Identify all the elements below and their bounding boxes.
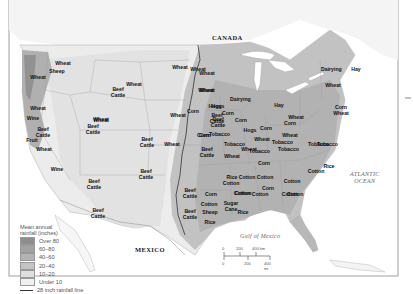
crop-label: Tobacco	[278, 147, 298, 153]
legend-label: 28 inch rainfall line	[37, 287, 83, 293]
crop-label: Wheat	[197, 71, 217, 77]
crop-label: Corn	[183, 109, 203, 115]
crop-label: Tobacco	[249, 149, 269, 155]
crop-label: Rice	[233, 210, 253, 216]
crop-label: Hay	[269, 103, 289, 109]
crop-label: Corn	[231, 118, 251, 124]
crop-label: Corn	[280, 121, 300, 127]
legend-label: 10–20	[39, 271, 55, 277]
crop-label: Sheep	[47, 69, 67, 75]
crop-label: Wheat	[196, 88, 216, 94]
crop-label: Wheat	[34, 147, 54, 153]
legend-item-over-80: Over 80	[20, 237, 110, 245]
crop-label: Dairying	[321, 67, 341, 73]
atlantic-line2: OCEAN	[350, 178, 380, 185]
crop-label: Wheat	[53, 61, 73, 67]
scale-mi-200: 200	[244, 261, 251, 266]
crop-label: Beef Cattle	[83, 124, 103, 135]
scale-mi-400: 400 mi	[264, 261, 274, 271]
swatch-10-20	[20, 270, 35, 278]
legend-item-10-20: 10–20	[20, 270, 110, 278]
crop-label: Sheep	[200, 210, 220, 216]
crop-label: Wheat	[222, 154, 242, 160]
crop-label: Corn	[256, 126, 276, 132]
crop-label: Wheat	[280, 133, 300, 139]
scale-km-200: 200	[236, 246, 243, 251]
crop-label: Wheat	[28, 75, 48, 81]
swatch-40-60	[20, 253, 35, 261]
scale-km-0: 0	[222, 246, 224, 251]
crop-label: Beef Cattle	[180, 209, 200, 220]
crop-label: Cotton	[221, 181, 241, 187]
legend-item-rainfall-line: 28 inch rainfall line	[20, 286, 110, 294]
scale-km-400: 400 km	[252, 246, 265, 251]
crop-label: Corn Wheat	[331, 105, 351, 116]
crop-label: Hogs	[208, 104, 228, 110]
crop-label: Cotton	[285, 192, 305, 198]
crop-label: Beef Cattle	[208, 117, 228, 128]
crop-label: Wheat	[162, 142, 182, 148]
swatch-under-10	[20, 278, 35, 286]
crop-label: Wheat	[28, 106, 48, 112]
country-label-mexico: MEXICO	[135, 246, 165, 253]
swatch-20-40	[20, 262, 35, 270]
crop-label: Beef Cattle	[84, 179, 104, 190]
legend-label: Over 80	[39, 238, 59, 244]
legend-item-40-60: 40–60	[20, 253, 110, 261]
legend-label: 40–60	[39, 254, 55, 260]
rainfall-line-sample	[20, 290, 33, 291]
legend-label: Under 10	[39, 279, 62, 285]
crop-label: Beef Cattle	[136, 169, 156, 180]
legend-title-line2: rainfall (inches)	[20, 230, 110, 236]
atlantic-ocean-label: ATLANTIC OCEAN	[350, 171, 380, 185]
scale-mi-0: 0	[222, 261, 224, 266]
crop-label: Wine	[23, 116, 43, 122]
crop-label: Cotton	[282, 179, 302, 185]
crop-label: Beef Cattle	[137, 137, 157, 148]
crop-label: Wheat	[323, 83, 343, 89]
legend-item-60-80: 60–80	[20, 245, 110, 253]
crop-label: Cotton	[199, 202, 219, 208]
crop-label: Dairying	[230, 97, 250, 103]
crop-label: Fruit	[22, 138, 42, 144]
crop-label: Beef Cattle	[180, 188, 200, 199]
crop-label: Rice	[200, 220, 220, 226]
crop-label: Tobacco	[209, 132, 229, 138]
crop-label: Cotton	[233, 191, 253, 197]
crop-label: Beef Cattle	[197, 147, 217, 158]
legend-label: 60–80	[39, 246, 55, 252]
crop-label: Hay	[346, 67, 366, 73]
rainfall-legend: Mean annual rainfall (inches) Over 80 60…	[20, 224, 110, 294]
swatch-over-80	[20, 237, 35, 245]
legend-item-20-40: 20–40	[20, 262, 110, 270]
atlantic-line1: ATLANTIC	[350, 171, 380, 178]
crop-label: Corn	[254, 161, 274, 167]
gulf-of-mexico-label: Gulf of Mexico	[240, 233, 280, 240]
crop-label: Cotton	[250, 192, 270, 198]
swatch-60-80	[20, 245, 35, 253]
legend-label: 20–40	[39, 263, 55, 269]
legend-item-under-10: Under 10	[20, 278, 110, 286]
crop-label: Wheat	[170, 65, 190, 71]
crop-label: Wheat	[91, 118, 111, 124]
crop-label: Tobacco	[272, 140, 292, 146]
scale-bar: 0 200 400 km 0 200 400 mi	[222, 242, 274, 270]
crop-label: Tobacco	[308, 142, 328, 148]
crop-label: Cotton	[255, 175, 275, 181]
country-label-canada: CANADA	[212, 34, 243, 41]
crop-label: Beef Cattle	[108, 87, 128, 98]
crop-label: Corn	[201, 192, 221, 198]
crop-label: Beef Cattle	[88, 208, 108, 219]
crop-label: Wheat	[252, 137, 272, 143]
crop-label: Wine	[47, 167, 67, 173]
crop-label: Cotton	[306, 169, 326, 175]
